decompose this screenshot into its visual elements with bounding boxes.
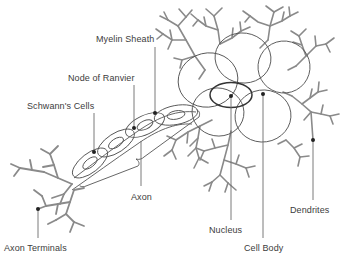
dendrite-tree-right-mid — [278, 140, 309, 166]
label-nucleus: Nucleus — [209, 225, 242, 235]
dendrite-tree-right-upper — [288, 29, 334, 70]
label-myelin-sheath: Myelin Sheath — [96, 34, 154, 44]
myelin-segment-3 — [93, 124, 139, 163]
label-axon-terminals: Axon Terminals — [4, 243, 67, 253]
cell-body-soma — [172, 29, 312, 145]
soma-lobe-lower-left — [188, 84, 248, 140]
nucleus-anchor — [229, 94, 233, 98]
axon-upper-edge — [74, 112, 196, 178]
soma-lobe-upper-left — [172, 47, 243, 114]
dendrite-trees — [156, 6, 339, 192]
myelin-sheath-anchor — [153, 111, 157, 115]
label-dendrites: Dendrites — [290, 205, 329, 215]
dendrite-tree-right-lower — [283, 82, 339, 140]
label-schwanns-cells: Schwann's Cells — [27, 101, 94, 111]
soma-lobe-upper-right — [255, 38, 312, 95]
schwanns-cells-anchor — [92, 150, 96, 154]
axon-lower-edge — [72, 124, 192, 190]
cell-body-anchor — [261, 92, 265, 96]
dendrite-tree-top-middle — [191, 8, 250, 44]
neuron-diagram: Myelin Sheath Node of Ranvier Schwann's … — [0, 0, 352, 268]
soma-lobe-top — [212, 29, 274, 86]
dendrite-tree-bottom-left — [164, 120, 212, 168]
axon-terminal-tree-lower — [34, 188, 84, 232]
axon-terminals-anchor — [36, 207, 40, 211]
neuron-illustration — [0, 0, 352, 268]
node-of-ranvier-anchor — [132, 126, 136, 130]
dendrites-anchor — [311, 138, 315, 142]
label-node-of-ranvier: Node of Ranvier — [68, 73, 135, 83]
myelin-sheath-segments — [68, 101, 200, 183]
label-cell-body: Cell Body — [244, 243, 283, 253]
label-axon: Axon — [131, 192, 152, 202]
